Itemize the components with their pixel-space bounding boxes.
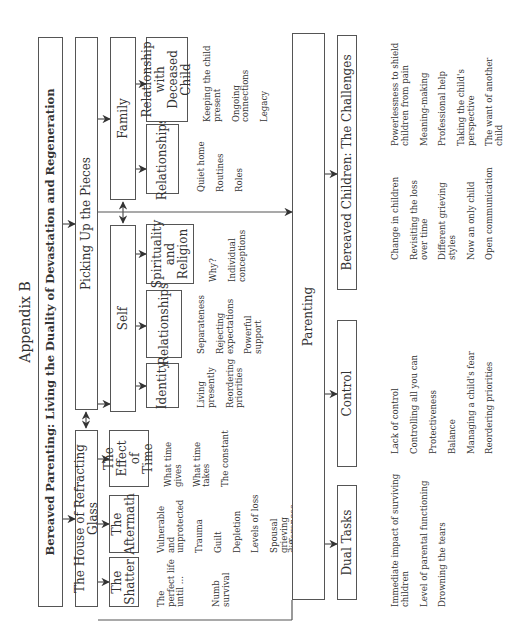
effect-of-time-box: The Effect of Time [109, 430, 149, 487]
note: Lack of control [391, 334, 400, 454]
note: Rejecting expectations [216, 288, 235, 354]
note: The constant [221, 417, 230, 487]
self-relationships-notes: Separateness Rejecting expectations Powe… [188, 288, 273, 354]
note: Reordering priorities [226, 360, 245, 408]
identity-box: Identity [146, 363, 179, 408]
effect-of-time-notes: What time gives What time takes The cons… [155, 417, 240, 487]
title-box: Bereaved Parenting: Living the Duality o… [38, 37, 63, 607]
self-relationships-box: Relationships [146, 290, 182, 358]
note: Trauma [195, 491, 204, 553]
note: Separateness [197, 288, 206, 354]
note: Quiet home [197, 132, 206, 192]
note: What time takes [193, 417, 212, 487]
note: Controlling all you can [410, 334, 419, 454]
spirituality-notes: Why? Individual conceptions [200, 224, 256, 282]
picking-up-the-pieces-box: Picking Up the Pieces [75, 37, 98, 410]
house-of-refracting-glass-box: The House of Refracting Glass [75, 430, 98, 607]
note: Change in children [391, 160, 400, 260]
challenges-notes-left: Change in children Revisiting the loss o… [382, 160, 504, 260]
note: Numb survival [212, 557, 231, 607]
note: Powerlessness to shield children from pa… [391, 34, 410, 146]
identity-notes: Living presently Reordering priorities [188, 360, 254, 408]
family-relationships-box: Relationships [146, 124, 179, 194]
dual-tasks-notes: Immediate impact of surviving children L… [382, 472, 457, 607]
note: The want of another child [485, 34, 504, 146]
family-relationships-notes: Quiet home Routines Roles [188, 132, 254, 192]
note: Depletion [233, 491, 242, 553]
note: Powerful support [244, 288, 263, 354]
deceased-child-notes: Keeping the child present Ongoing connec… [194, 30, 279, 122]
note: Living presently [197, 360, 216, 408]
note: Taking the child's perspective [457, 34, 476, 146]
note: Protectiveness [429, 334, 438, 454]
note: Individual conceptions [228, 224, 247, 282]
note: Open communication [485, 160, 494, 260]
aftermath-box: The Aftermath [109, 495, 139, 553]
note: Vulnerable and unprotected [157, 491, 185, 553]
self-box: Self [110, 225, 136, 412]
note: Keeping the child present [203, 30, 222, 122]
note: Level of parental functioning [420, 472, 429, 607]
note: Reordering priorities [485, 334, 494, 454]
note: Revisiting the loss over time [410, 160, 429, 260]
note: Balance [448, 334, 457, 454]
note: Professional help [438, 34, 447, 146]
note: Drowning the tears [438, 472, 447, 607]
dual-tasks-box: Dual Tasks [337, 485, 357, 600]
note: Different grieving styles [438, 160, 457, 260]
note: Guilt [214, 491, 223, 553]
note: What time gives [164, 417, 183, 487]
relationship-deceased-child-box: Relationship with Deceased Child [146, 37, 188, 122]
shatter-box: The Shatter [109, 557, 139, 607]
note: Ongoing connections [232, 30, 251, 122]
bereaved-children-challenges-box: Bereaved Children: The Challenges [337, 35, 357, 290]
note: Routines [216, 132, 225, 192]
spirituality-religion-box: Spirituality and Religion [146, 224, 194, 284]
note: Roles [235, 132, 244, 192]
note: Managing a child's fear [467, 334, 476, 454]
appendix-label: Appendix B [17, 222, 33, 422]
shatter-notes: The perfect life until ... Numb survival [148, 557, 241, 607]
family-box: Family [110, 37, 136, 200]
challenges-notes-right: Powerlessness to shield children from pa… [382, 34, 507, 146]
note: Why? [209, 224, 218, 282]
note: The perfect life until ... [157, 557, 185, 607]
control-notes: Lack of control Controlling all you can … [382, 334, 504, 454]
parenting-box: Parenting [292, 33, 325, 600]
control-box: Control [337, 320, 357, 467]
note: Now an only child [467, 160, 476, 260]
note: Meaning-making [420, 34, 429, 146]
aftermath-notes: Vulnerable and unprotected Trauma Guilt … [148, 491, 308, 553]
note: Immediate impact of surviving children [391, 472, 410, 607]
note: Legacy [260, 30, 269, 122]
note: Levels of loss [251, 491, 260, 553]
